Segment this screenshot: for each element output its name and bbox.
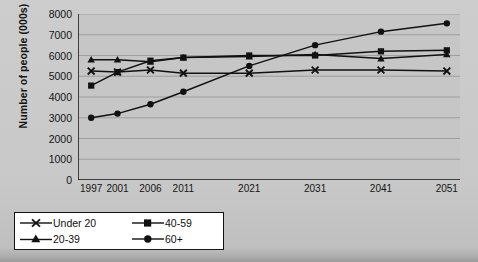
legend-item-under-20: Under 20 <box>19 216 131 230</box>
y-tick-label: 1000 <box>32 153 72 165</box>
x-tick-label: 2006 <box>139 183 161 194</box>
legend-label-40-59: 40-59 <box>165 217 192 229</box>
y-tick-label: 3000 <box>32 112 72 124</box>
scanned-page: Number of people (000s) 0100020003000400… <box>0 0 478 262</box>
x-tick-label: 2031 <box>304 183 326 194</box>
x-tick-label: 2001 <box>106 183 128 194</box>
y-tick-label: 2000 <box>32 133 72 145</box>
plot-svg <box>78 14 460 180</box>
data-point-circle <box>444 20 450 26</box>
data-point-circle <box>378 28 384 34</box>
data-point-square <box>444 47 450 53</box>
legend-marker-square-icon <box>131 216 165 230</box>
legend-label-60-plus: 60+ <box>165 233 183 245</box>
y-tick-label: 5000 <box>32 70 72 82</box>
data-point-square <box>378 48 384 54</box>
legend-label-20-39: 20-39 <box>53 233 80 245</box>
x-tick-label: 2011 <box>173 183 195 194</box>
data-point-square <box>312 52 318 58</box>
plot-area <box>78 14 460 180</box>
data-point-square <box>246 52 252 58</box>
y-axis-tick-labels: 010002000300040005000600070008000 <box>32 0 72 205</box>
data-point-circle <box>312 42 318 48</box>
x-tick-label: 2041 <box>370 183 392 194</box>
legend-row: 20-39 60+ <box>19 231 219 247</box>
legend-marker-x-icon <box>19 216 53 230</box>
data-point-square <box>180 54 186 60</box>
data-point-circle <box>88 115 94 121</box>
legend-item-20-39: 20-39 <box>19 232 131 246</box>
y-tick-label: 0 <box>32 174 72 186</box>
legend-label-under-20: Under 20 <box>53 217 96 229</box>
chart-legend: Under 20 40-59 20-39 <box>14 212 224 250</box>
legend-marker-circle-icon <box>131 232 165 246</box>
y-tick-label: 6000 <box>32 50 72 62</box>
y-tick-label: 7000 <box>32 29 72 41</box>
data-point-circle <box>147 101 153 107</box>
scan-bleed-artifact <box>0 248 478 262</box>
y-tick-label: 8000 <box>32 8 72 20</box>
y-axis-label: Number of people (000s) <box>17 0 29 141</box>
y-tick-label: 4000 <box>32 91 72 103</box>
data-point-circle <box>180 89 186 95</box>
legend-item-60-plus: 60+ <box>131 232 183 246</box>
data-point-square <box>88 82 94 88</box>
x-tick-label: 2051 <box>436 183 458 194</box>
data-point-circle <box>246 63 252 69</box>
x-tick-label: 2021 <box>238 183 260 194</box>
data-point-square <box>114 69 120 75</box>
legend-row: Under 20 40-59 <box>19 215 219 231</box>
x-tick-label: 1997 <box>80 183 102 194</box>
legend-marker-triangle-icon <box>19 232 53 246</box>
data-point-square <box>147 58 153 64</box>
legend-item-40-59: 40-59 <box>131 216 192 230</box>
data-point-circle <box>114 110 120 116</box>
line-chart: Number of people (000s) 0100020003000400… <box>0 0 478 205</box>
